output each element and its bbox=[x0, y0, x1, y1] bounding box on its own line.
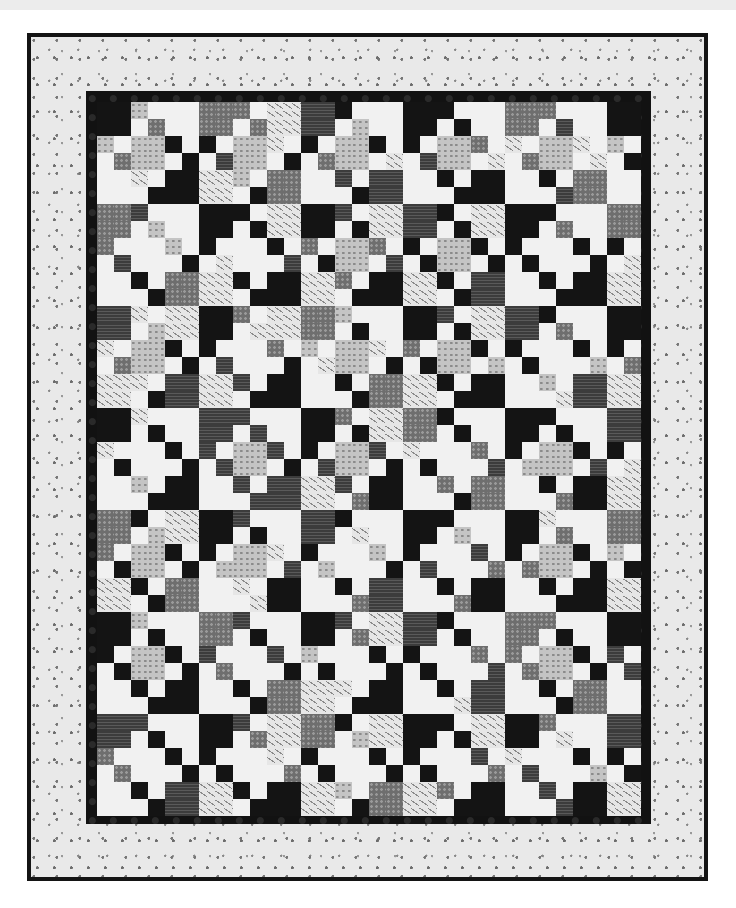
quilt-patch bbox=[624, 255, 641, 272]
quilt-patch bbox=[522, 697, 539, 714]
quilt-patch bbox=[437, 544, 454, 561]
quilt-patch bbox=[573, 374, 590, 391]
quilt-patch bbox=[131, 374, 148, 391]
quilt-patch bbox=[114, 680, 131, 697]
quilt-patch bbox=[556, 663, 573, 680]
quilt-patch bbox=[284, 612, 301, 629]
quilt-patch bbox=[420, 663, 437, 680]
quilt-patch bbox=[369, 510, 386, 527]
quilt-patch bbox=[250, 561, 267, 578]
quilt-patch bbox=[335, 680, 352, 697]
quilt-patch bbox=[386, 289, 403, 306]
quilt-patch bbox=[437, 357, 454, 374]
quilt-patch bbox=[199, 646, 216, 663]
quilt-patch bbox=[148, 170, 165, 187]
quilt-patch bbox=[97, 442, 114, 459]
quilt-patch bbox=[148, 561, 165, 578]
quilt-patch bbox=[131, 646, 148, 663]
quilt-patch bbox=[233, 272, 250, 289]
quilt-patch bbox=[607, 578, 624, 595]
quilt-patch bbox=[165, 170, 182, 187]
quilt-patch bbox=[131, 493, 148, 510]
quilt-patch bbox=[114, 595, 131, 612]
quilt-patch bbox=[539, 102, 556, 119]
quilt-patch bbox=[199, 629, 216, 646]
quilt-patch bbox=[403, 272, 420, 289]
quilt-patch bbox=[471, 680, 488, 697]
quilt-patch bbox=[420, 731, 437, 748]
quilt-patch bbox=[488, 425, 505, 442]
quilt-patch bbox=[233, 204, 250, 221]
quilt-patch bbox=[301, 799, 318, 816]
quilt-patch bbox=[301, 493, 318, 510]
quilt-patch bbox=[165, 187, 182, 204]
quilt-patch bbox=[522, 714, 539, 731]
quilt-patch bbox=[505, 544, 522, 561]
quilt-patch bbox=[386, 697, 403, 714]
quilt-patch bbox=[607, 187, 624, 204]
quilt-patch bbox=[165, 272, 182, 289]
quilt-patch bbox=[488, 782, 505, 799]
quilt-patch bbox=[352, 646, 369, 663]
quilt-patch bbox=[352, 374, 369, 391]
quilt-patch bbox=[403, 493, 420, 510]
cropped-caption-strip bbox=[0, 0, 736, 10]
quilt-patch bbox=[590, 612, 607, 629]
quilt-patch bbox=[233, 493, 250, 510]
quilt-patch bbox=[131, 561, 148, 578]
quilt-patch bbox=[284, 238, 301, 255]
quilt-patch bbox=[369, 476, 386, 493]
quilt-patch bbox=[335, 255, 352, 272]
quilt-patch bbox=[284, 680, 301, 697]
quilt-patch bbox=[420, 782, 437, 799]
quilt-patch bbox=[318, 272, 335, 289]
quilt-patch bbox=[505, 306, 522, 323]
quilt-patch bbox=[318, 476, 335, 493]
quilt-patch bbox=[522, 595, 539, 612]
quilt-patch bbox=[539, 374, 556, 391]
quilt-patch bbox=[420, 442, 437, 459]
quilt-patch bbox=[199, 442, 216, 459]
quilt-patch bbox=[352, 221, 369, 238]
quilt-patch bbox=[386, 595, 403, 612]
quilt-patch bbox=[488, 442, 505, 459]
quilt-patch bbox=[590, 323, 607, 340]
quilt-patch bbox=[471, 765, 488, 782]
quilt-patch bbox=[420, 306, 437, 323]
quilt-patch bbox=[624, 459, 641, 476]
quilt-patch bbox=[284, 765, 301, 782]
quilt-patch bbox=[505, 578, 522, 595]
quilt-patch bbox=[556, 255, 573, 272]
quilt-patch bbox=[335, 306, 352, 323]
quilt-patch bbox=[420, 102, 437, 119]
quilt-patch bbox=[573, 187, 590, 204]
quilt-patch bbox=[335, 697, 352, 714]
quilt-patch bbox=[420, 646, 437, 663]
quilt-patch bbox=[267, 782, 284, 799]
quilt-patch bbox=[97, 238, 114, 255]
quilt-patch bbox=[505, 340, 522, 357]
quilt-patch bbox=[182, 136, 199, 153]
quilt-patch bbox=[454, 238, 471, 255]
quilt-patch bbox=[403, 391, 420, 408]
quilt-patch bbox=[267, 646, 284, 663]
quilt-patch bbox=[488, 255, 505, 272]
quilt-patch bbox=[420, 340, 437, 357]
quilt-patch bbox=[284, 714, 301, 731]
quilt-patch bbox=[607, 204, 624, 221]
quilt-patch bbox=[301, 578, 318, 595]
quilt-patch bbox=[522, 357, 539, 374]
quilt-patch bbox=[216, 170, 233, 187]
quilt-patch bbox=[607, 731, 624, 748]
quilt-patch bbox=[182, 340, 199, 357]
quilt-patch bbox=[352, 527, 369, 544]
quilt-patch bbox=[97, 340, 114, 357]
quilt-patch bbox=[386, 782, 403, 799]
quilt-patch bbox=[437, 187, 454, 204]
quilt-patch bbox=[607, 561, 624, 578]
quilt-patch bbox=[505, 153, 522, 170]
quilt-patch bbox=[437, 323, 454, 340]
quilt-patch bbox=[199, 493, 216, 510]
quilt-patch bbox=[301, 527, 318, 544]
quilt-patch bbox=[590, 102, 607, 119]
